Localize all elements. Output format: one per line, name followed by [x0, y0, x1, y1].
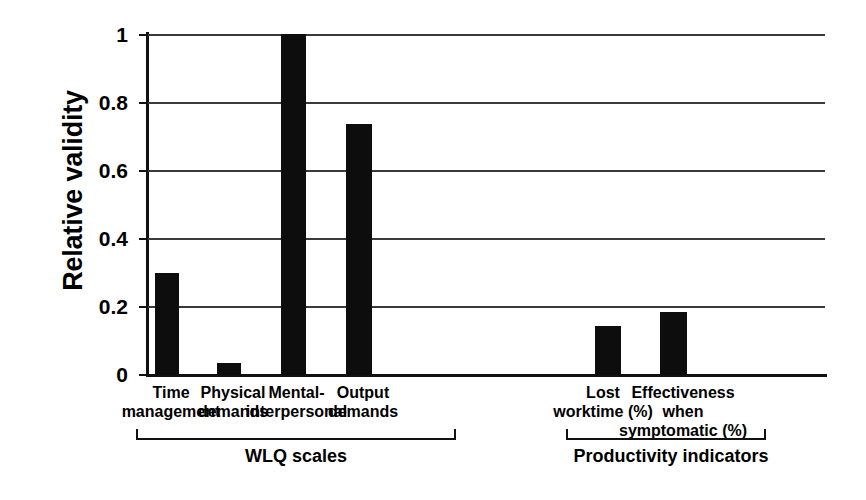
bar-physical-demands [217, 363, 241, 375]
gridline-0.2 [148, 306, 825, 308]
y-tick-label-0.6: 0.6 [0, 160, 128, 181]
bracket-productivity-indicators [566, 428, 766, 440]
bar-output-demands [346, 124, 372, 375]
group-label-wlq-scales: WLQ scales [136, 446, 456, 467]
bracket-cap-right [764, 429, 766, 440]
gridline-0.8 [148, 102, 825, 104]
gridline-0.4 [148, 238, 825, 240]
bar-chart-figure: Relative validity 1 0.8 0.6 0.4 0.2 0 Ti… [0, 0, 866, 500]
gridline-0.6 [148, 170, 825, 172]
x-label-output-demands: Output demands [297, 384, 429, 422]
y-tick-label-0.2: 0.2 [0, 296, 128, 317]
plot-area [148, 34, 825, 375]
bracket-line [566, 438, 766, 440]
y-tick-label-1: 1 [0, 24, 128, 45]
bracket-line [136, 438, 456, 440]
y-tick-label-0: 0 [0, 364, 128, 385]
y-tick-label-0.4: 0.4 [0, 228, 128, 249]
bar-time-management [155, 273, 179, 375]
bar-effectiveness-when-symptomatic [660, 312, 687, 375]
y-tick-label-0.8: 0.8 [0, 92, 128, 113]
bar-mental-interpersonal [281, 34, 306, 375]
bar-lost-worktime [595, 326, 621, 375]
gridline-1 [148, 34, 825, 36]
bracket-cap-right [454, 429, 456, 440]
bracket-wlq-scales [136, 428, 456, 440]
group-label-productivity-indicators: Productivity indicators [531, 446, 811, 467]
